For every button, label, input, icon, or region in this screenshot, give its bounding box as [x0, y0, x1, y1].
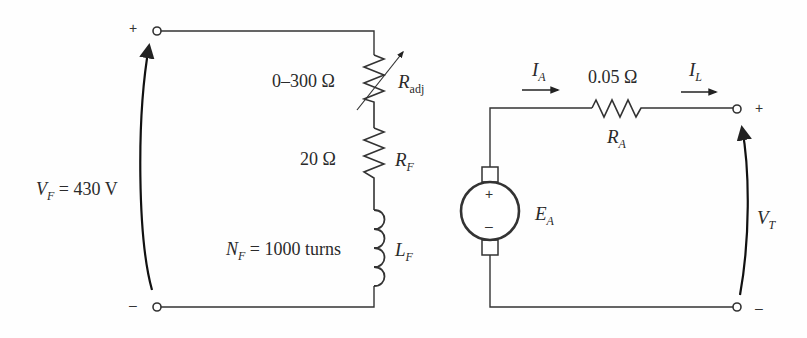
field-terminal-bottom	[153, 303, 161, 311]
field-circuit	[153, 27, 385, 311]
armature-resistor-value: 0.05 Ω	[588, 68, 637, 86]
field-resistor-value: 20 Ω	[300, 150, 336, 168]
output-plus-sign: +	[755, 101, 763, 115]
terminal-voltage-arrow	[740, 128, 748, 295]
rheostat-range-label: 0–300 Ω	[272, 72, 335, 90]
field-inductor-coil	[374, 210, 385, 286]
field-voltage-label: VF = 430 V	[36, 180, 118, 198]
output-minus-sign: –	[755, 301, 763, 315]
terminal-voltage-label: VT	[757, 208, 775, 227]
field-plus-sign: +	[129, 21, 137, 35]
machine-minus-sign: –	[485, 219, 493, 233]
field-top-wire	[161, 31, 374, 55]
field-terminal-top	[153, 27, 161, 35]
rheostat-symbol: Radj	[398, 72, 424, 91]
field-turns-label: NF = 1000 turns	[226, 240, 341, 258]
load-current-label: IL	[689, 60, 702, 79]
field-resistor-zigzag	[364, 128, 384, 210]
field-resistor-symbol: RF	[395, 150, 414, 169]
circuit-diagram: + – VF = 430 V 0–300 Ω Radj 20 Ω RF NF =…	[0, 0, 807, 338]
armature-current-label: IA	[532, 60, 546, 79]
armature-circuit	[461, 100, 741, 311]
armature-resistor-zigzag	[592, 100, 733, 117]
field-inductor-symbol: LF	[395, 240, 413, 259]
armature-resistor-symbol: RA	[607, 127, 626, 146]
armature-bottom-wire	[490, 255, 733, 307]
armature-top-wire	[490, 108, 592, 167]
brush-bottom	[482, 240, 498, 255]
field-bottom-wire	[161, 286, 374, 307]
rheostat-zigzag	[364, 55, 384, 128]
machine-plus-sign: +	[485, 187, 493, 201]
brush-top	[482, 167, 498, 182]
terminal-top-right	[733, 105, 741, 113]
internal-voltage-label: EA	[535, 204, 554, 223]
field-voltage-arrow	[140, 46, 152, 290]
terminal-bottom-right	[733, 303, 741, 311]
field-minus-sign: –	[129, 298, 137, 312]
